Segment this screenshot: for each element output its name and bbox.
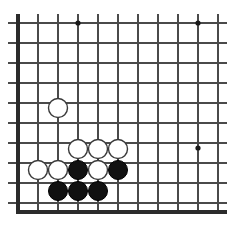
star-point-right-side [195, 145, 200, 150]
black-stone-lower-a[interactable] [49, 182, 68, 201]
white-stone-left-b[interactable] [49, 161, 68, 180]
go-board-grid[interactable] [0, 0, 227, 233]
star-point-top-left [75, 20, 80, 25]
black-stone-mid-b[interactable] [109, 161, 128, 180]
black-stone-lower-b[interactable] [69, 182, 88, 201]
black-stone-mid-a[interactable] [69, 161, 88, 180]
star-point-top-right [195, 20, 200, 25]
black-stone-lower-c[interactable] [89, 182, 108, 201]
white-stone-upper-b[interactable] [89, 140, 108, 159]
board-background [0, 0, 227, 233]
white-stone-mid-center[interactable] [89, 161, 108, 180]
white-stone-lone[interactable] [49, 99, 68, 118]
white-stone-left-a[interactable] [29, 161, 48, 180]
white-stone-upper-c[interactable] [109, 140, 128, 159]
go-board-diagram [0, 0, 227, 233]
white-stone-upper-a[interactable] [69, 140, 88, 159]
